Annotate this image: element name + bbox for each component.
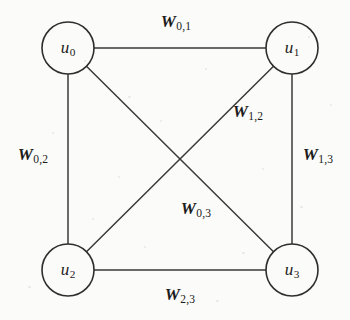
graph-node-label-u1: u1 xyxy=(285,38,300,58)
graph-figure: u0u1u2u3 W0,1W0,2W1,2W1,3W0,3W2,3 xyxy=(0,0,350,320)
edges-group xyxy=(68,48,292,270)
edge-weight-label-u1-u3: W1,3 xyxy=(303,145,333,165)
edge-weight-label-u1-u2: W1,2 xyxy=(233,102,263,122)
graph-node-label-u0: u0 xyxy=(61,38,76,58)
edge-weight-label-u0-u3: W0,3 xyxy=(181,199,211,219)
graph-node-label-u2: u2 xyxy=(61,260,76,280)
edge-weight-label-u0-u1: W0,1 xyxy=(161,12,191,32)
edge-weight-label-u0-u2: W0,2 xyxy=(18,145,48,165)
graph-node-label-u3: u3 xyxy=(285,260,300,280)
edge-weight-label-u2-u3: W2,3 xyxy=(165,285,195,305)
